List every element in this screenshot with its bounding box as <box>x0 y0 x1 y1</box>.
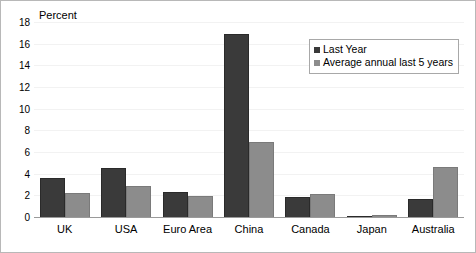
bar-canada-series-0 <box>285 197 310 218</box>
bar-group-uk <box>34 23 95 218</box>
y-axis-tick-0: 0 <box>24 213 30 223</box>
bar-group-china <box>218 23 279 218</box>
bar-euro-area-series-0 <box>163 192 188 218</box>
bar-china-series-1 <box>249 142 274 218</box>
y-axis-tick-2: 2 <box>24 191 30 201</box>
bar-uk-series-1 <box>65 193 90 218</box>
legend-entry-1: Average annual last 5 years <box>314 56 453 69</box>
y-axis-title: Percent <box>39 9 77 21</box>
legend-label-0: Last Year <box>323 43 367 56</box>
bar-canada-series-1 <box>310 194 335 218</box>
x-axis-tick-uk: UK <box>34 223 95 235</box>
y-axis-tick-12: 12 <box>19 83 30 93</box>
bar-australia-series-1 <box>433 167 458 218</box>
y-axis-tick-4: 4 <box>24 170 30 180</box>
bar-group-usa <box>95 23 156 218</box>
x-axis-tick-labels: UKUSAEuro AreaChinaCanadaJapanAustralia <box>34 223 464 235</box>
x-axis-tick-canada: Canada <box>280 223 341 235</box>
y-axis-tick-10: 10 <box>19 105 30 115</box>
legend-label-1: Average annual last 5 years <box>323 56 453 69</box>
x-axis-baseline <box>34 217 464 218</box>
x-axis-tick-china: China <box>218 223 279 235</box>
legend-entry-0: Last Year <box>314 43 453 56</box>
bar-usa-series-0 <box>101 168 126 218</box>
y-axis-tick-18: 18 <box>19 18 30 28</box>
y-axis-tick-8: 8 <box>24 126 30 136</box>
y-axis-tick-14: 14 <box>19 61 30 71</box>
legend-swatch-icon-0 <box>314 47 320 53</box>
y-axis-tick-6: 6 <box>24 148 30 158</box>
bar-chart-figure: Percent 024681012141618 UKUSAEuro AreaCh… <box>0 0 476 253</box>
bar-usa-series-1 <box>126 186 151 218</box>
chart-legend: Last YearAverage annual last 5 years <box>309 39 459 74</box>
bar-euro-area-series-1 <box>188 196 213 218</box>
x-axis-tick-australia: Australia <box>403 223 464 235</box>
y-axis-tick-16: 16 <box>19 40 30 50</box>
bar-group-euro-area <box>157 23 218 218</box>
legend-swatch-icon-1 <box>314 60 320 66</box>
x-axis-tick-japan: Japan <box>341 223 402 235</box>
x-axis-tick-euro-area: Euro Area <box>157 223 218 235</box>
bar-china-series-0 <box>224 34 249 218</box>
x-axis-tick-usa: USA <box>95 223 156 235</box>
bar-australia-series-0 <box>408 199 433 219</box>
bar-uk-series-0 <box>40 178 65 218</box>
